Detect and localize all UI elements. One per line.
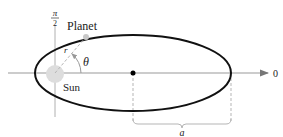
theta-label: θ — [83, 55, 89, 69]
pi-over-2-denominator: 2 — [53, 19, 57, 28]
planet-label: Planet — [67, 19, 98, 33]
theta-arc — [72, 54, 81, 73]
semi-major-axis-label: a — [180, 127, 185, 137]
pi-over-2-numerator: π — [53, 8, 58, 18]
planet-icon — [83, 34, 89, 40]
sun-icon — [46, 65, 64, 83]
orbit-diagram: π 2 a Planet r θ Sun 0 — [0, 0, 283, 137]
radius-label: r — [64, 45, 68, 55]
sun-label: Sun — [63, 81, 81, 93]
zero-angle-label: 0 — [273, 68, 278, 79]
ellipse-center-point — [131, 71, 136, 76]
